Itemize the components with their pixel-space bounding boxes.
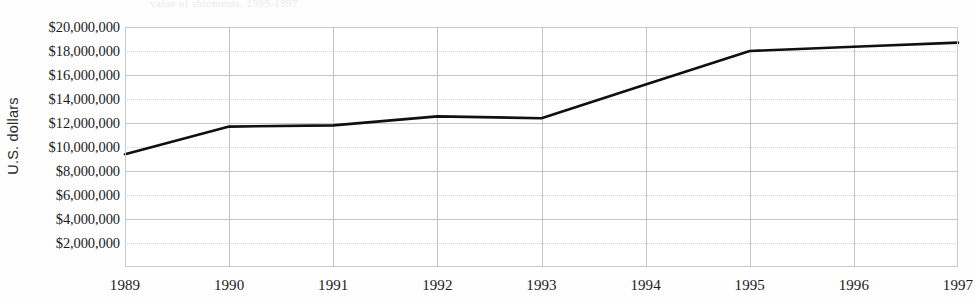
plot-area — [125, 27, 958, 267]
cropped-caption-remnant: value of shipments, 1989-1997 — [150, 0, 570, 7]
x-axis-tick-labels: 198919901991199219931994199519961997 — [0, 272, 977, 300]
x-tick-label: 1989 — [80, 274, 170, 296]
x-tick-label: 1994 — [601, 274, 691, 296]
x-tick-label: 1992 — [392, 274, 482, 296]
y-tick-label: $10,000,000 — [24, 140, 120, 155]
y-tick-label: $14,000,000 — [24, 92, 120, 107]
y-axis-title-label: U.S. dollars — [5, 97, 21, 174]
y-axis-title: U.S. dollars — [2, 0, 24, 272]
y-tick-label: $2,000,000 — [24, 236, 120, 251]
x-tick-label: 1993 — [497, 274, 587, 296]
series-line-u-s-dollars — [125, 43, 958, 155]
x-tick-label: 1991 — [288, 274, 378, 296]
x-tick-label: 1990 — [184, 274, 274, 296]
y-tick-label: $8,000,000 — [24, 164, 120, 179]
y-tick-label: $6,000,000 — [24, 188, 120, 203]
data-series-line — [125, 27, 958, 267]
y-axis-tick-labels: $2,000,000$4,000,000$6,000,000$8,000,000… — [24, 0, 120, 272]
y-tick-label: $16,000,000 — [24, 68, 120, 83]
x-tick-label: 1997 — [913, 274, 977, 296]
line-chart-figure: value of shipments, 1989-1997 U.S. dolla… — [0, 0, 977, 300]
x-tick-label: 1996 — [809, 274, 899, 296]
y-tick-label: $20,000,000 — [24, 20, 120, 35]
y-tick-label: $4,000,000 — [24, 212, 120, 227]
y-tick-label: $12,000,000 — [24, 116, 120, 131]
y-tick-label: $18,000,000 — [24, 44, 120, 59]
x-tick-label: 1995 — [705, 274, 795, 296]
